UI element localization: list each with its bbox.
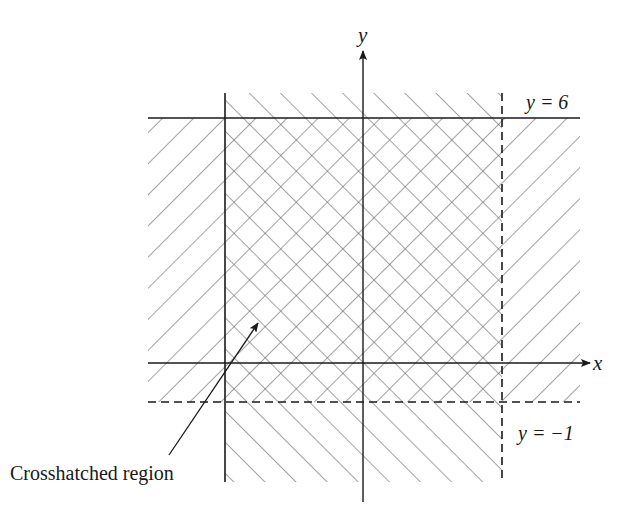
line-y6-label: y = 6 [524, 91, 568, 114]
region-diagram: y x y = 6 y = −1 Crosshatched region [0, 0, 618, 513]
y-axis-label: y [356, 23, 368, 47]
x-axis-label: x [592, 351, 603, 375]
line-yneg1-label: y = −1 [516, 422, 574, 445]
crosshatched-region-label: Crosshatched region [10, 462, 174, 485]
